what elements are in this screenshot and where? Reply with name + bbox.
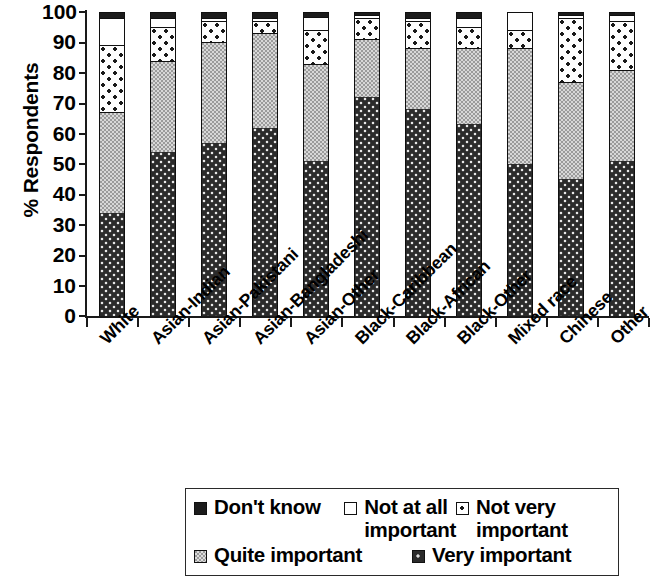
legend-swatch-not-at-all-important <box>344 502 357 515</box>
y-tick-mark <box>79 315 86 317</box>
y-tick-label: 50 <box>42 152 76 176</box>
y-tick-label: 80 <box>42 61 76 85</box>
bar-white[interactable] <box>99 12 125 316</box>
bar-segment-notatall <box>508 12 532 30</box>
y-tick-100: 100 <box>42 0 86 24</box>
bar-segment-very <box>610 161 634 316</box>
bar-segment-notvery <box>253 21 277 33</box>
y-tick-0: 0 <box>42 304 86 328</box>
y-tick-60: 60 <box>42 122 86 146</box>
legend-label-quite-important: Quite important <box>214 544 362 567</box>
bar-segment-notvery <box>610 21 634 70</box>
bar-segment-notatall <box>151 18 175 27</box>
y-axis-title: % Respondents <box>19 25 43 255</box>
bar-segment-notvery <box>202 21 226 42</box>
y-tick-90: 90 <box>42 30 86 54</box>
y-tick-mark <box>79 103 86 105</box>
bar-segment-quite <box>457 48 481 124</box>
bar-segment-notvery <box>406 21 430 48</box>
bar-other[interactable] <box>609 12 635 316</box>
y-tick-40: 40 <box>42 182 86 206</box>
bar-segment-quite <box>355 39 379 97</box>
chart-legend: Don't know Not at all important Not very… <box>185 488 619 576</box>
bar-segment-notvery <box>457 27 481 48</box>
bar-segment-very <box>151 152 175 316</box>
bar-segment-notvery <box>151 27 175 60</box>
bar-segment-quite <box>100 112 124 212</box>
legend-label-not-at-all-important: Not at all important <box>364 496 456 542</box>
y-tick-label: 10 <box>42 274 76 298</box>
legend-row-1: Don't know Not at all important Not very… <box>194 496 610 542</box>
legend-swatch-dont-know <box>194 502 207 515</box>
legend-label-very-important: Very important <box>432 544 571 567</box>
y-tick-mark <box>79 285 86 287</box>
y-tick-label: 30 <box>42 213 76 237</box>
bar-asian-indian[interactable] <box>150 12 176 316</box>
bar-segment-very <box>100 213 124 316</box>
y-tick-80: 80 <box>42 61 86 85</box>
y-tick-label: 20 <box>42 243 76 267</box>
y-tick-label: 90 <box>42 30 76 54</box>
bar-segment-quite <box>202 42 226 142</box>
legend-label-not-very-important: Not very important <box>476 496 610 542</box>
y-tick-mark <box>79 133 86 135</box>
bar-segment-quite <box>253 33 277 127</box>
legend-item-quite-important[interactable]: Quite important <box>194 544 412 567</box>
y-tick-50: 50 <box>42 152 86 176</box>
bar-segment-notvery <box>559 18 583 82</box>
y-tick-label: 0 <box>42 304 76 328</box>
legend-row-2: Quite important Very important <box>194 544 610 567</box>
bar-segment-quite <box>559 82 583 179</box>
stacked-bar-chart: % Respondents 0102030405060708090100 Whi… <box>0 0 662 588</box>
legend-item-not-at-all-important[interactable]: Not at all important <box>344 496 456 542</box>
y-tick-30: 30 <box>42 213 86 237</box>
y-tick-20: 20 <box>42 243 86 267</box>
bar-segment-notatall <box>304 17 328 31</box>
bar-segment-quite <box>610 70 634 161</box>
legend-item-dont-know[interactable]: Don't know <box>194 496 344 519</box>
y-tick-label: 60 <box>42 122 76 146</box>
y-tick-mark <box>79 72 86 74</box>
y-tick-10: 10 <box>42 274 86 298</box>
y-tick-label: 40 <box>42 182 76 206</box>
y-tick-mark <box>79 194 86 196</box>
legend-swatch-not-very-important <box>456 502 469 515</box>
legend-swatch-very-important <box>412 550 425 563</box>
legend-item-not-very-important[interactable]: Not very important <box>456 496 610 542</box>
legend-label-dont-know: Don't know <box>214 496 321 519</box>
bar-segment-notatall <box>100 18 124 45</box>
bar-segment-notvery <box>508 30 532 48</box>
bar-segment-quite <box>304 64 328 161</box>
bar-chinese[interactable] <box>558 12 584 316</box>
bar-segment-quite <box>151 61 175 152</box>
y-tick-label: 100 <box>42 0 76 24</box>
y-tick-label: 70 <box>42 91 76 115</box>
bar-segment-notvery <box>355 18 379 39</box>
bar-segment-notvery <box>304 30 328 63</box>
y-tick-mark <box>79 224 86 226</box>
bar-segment-quite <box>508 48 532 164</box>
bar-segment-notvery <box>100 45 124 112</box>
y-tick-70: 70 <box>42 91 86 115</box>
x-tick-mark <box>86 318 88 327</box>
y-tick-mark <box>79 11 86 13</box>
bar-segment-quite <box>406 48 430 109</box>
legend-swatch-quite-important <box>194 550 207 563</box>
y-tick-mark <box>79 163 86 165</box>
y-tick-mark <box>79 42 86 44</box>
y-tick-mark <box>79 255 86 257</box>
legend-item-very-important[interactable]: Very important <box>412 544 571 567</box>
bar-segment-notatall <box>457 18 481 27</box>
